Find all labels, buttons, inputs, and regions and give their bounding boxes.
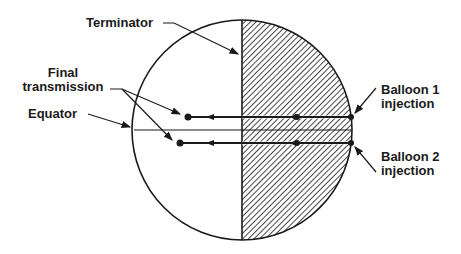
final-transmission-label-line2: transmission	[16, 80, 110, 94]
diagram-graphics	[0, 0, 461, 254]
equator-label: Equator	[28, 107, 77, 121]
balloon2-label-line1: Balloon 2	[381, 150, 440, 164]
final-transmission-label-line1: Final	[16, 66, 110, 80]
balloon1-label-line1: Balloon 1	[381, 83, 440, 97]
planet-diagram: Terminator Final transmission Equator Ba…	[0, 0, 461, 254]
balloon2-label-line2: injection	[381, 164, 434, 178]
balloon1-label-line2: injection	[381, 97, 434, 111]
terminator-label: Terminator	[86, 16, 153, 30]
